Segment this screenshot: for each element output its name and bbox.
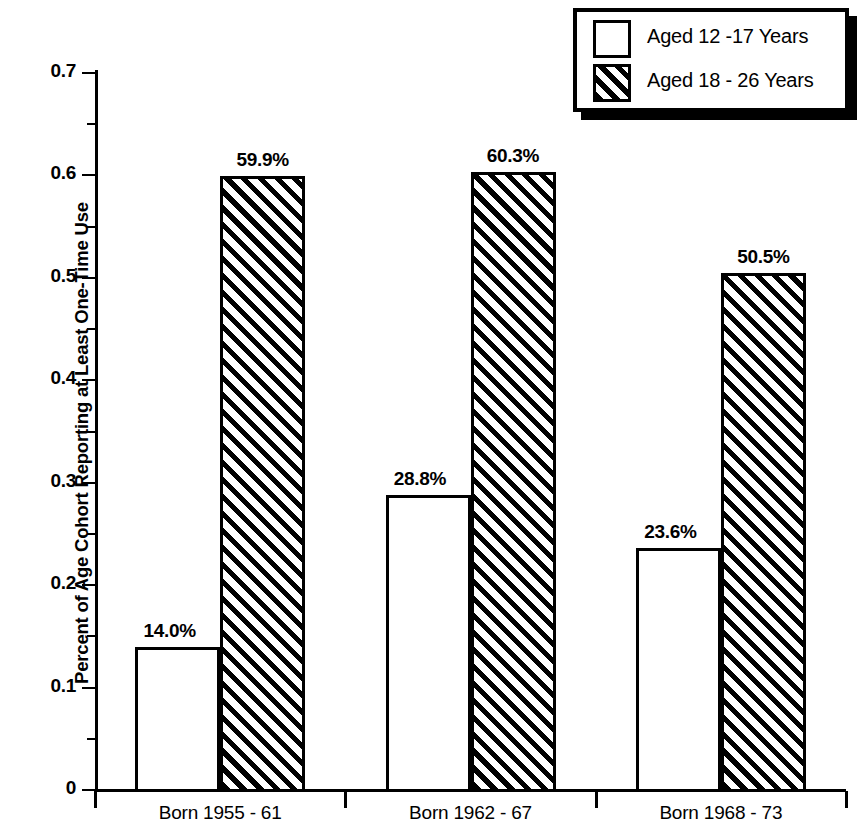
y-tick-major [82, 584, 98, 586]
y-tick-minor [87, 226, 98, 228]
y-tick-minor [87, 635, 98, 637]
x-axis-separator-tick [845, 791, 848, 808]
y-tick-label: 0.1 [0, 675, 76, 697]
y-tick-major [82, 174, 98, 176]
bar-value-label: 59.9% [208, 149, 318, 171]
bar-open [135, 647, 220, 792]
y-tick-major [82, 72, 98, 74]
y-tick-label: 0 [0, 777, 76, 799]
y-tick-minor [87, 431, 98, 433]
bar-value-label: 14.0% [115, 620, 225, 642]
y-tick-major [82, 482, 98, 484]
y-tick-label: 0.3 [0, 470, 76, 492]
y-tick-minor [87, 533, 98, 535]
y-tick-minor [87, 123, 98, 125]
bar-open [386, 495, 471, 792]
legend: Aged 12 -17 Years Aged 18 - 26 Years [573, 8, 849, 112]
x-axis-separator-tick [94, 791, 97, 808]
bar-chart: Percent of Age Cohort Reporting at Least… [0, 0, 867, 839]
x-category-label: Born 1955 - 61 [100, 802, 340, 824]
x-category-label: Born 1968 - 73 [601, 802, 841, 824]
y-tick-label: 0.7 [0, 60, 76, 82]
y-tick-major [82, 687, 98, 689]
y-tick-minor [87, 738, 98, 740]
y-tick-minor [87, 328, 98, 330]
legend-swatch-hatched-icon [593, 64, 631, 102]
y-tick-label: 0.6 [0, 162, 76, 184]
y-tick-major [82, 277, 98, 279]
bar-value-label: 60.3% [458, 145, 568, 167]
legend-label-1: Aged 18 - 26 Years [647, 69, 814, 92]
y-tick-label: 0.5 [0, 265, 76, 287]
bar-value-label: 50.5% [708, 246, 818, 268]
bar-open [636, 548, 721, 792]
bar-hatched [471, 172, 556, 792]
y-tick-label: 0.4 [0, 367, 76, 389]
bar-hatched [220, 176, 305, 792]
x-axis-separator-tick [344, 791, 347, 808]
bar-value-label: 23.6% [615, 521, 725, 543]
legend-label-0: Aged 12 -17 Years [647, 25, 808, 48]
bar-value-label: 28.8% [365, 468, 475, 490]
x-axis-separator-tick [595, 791, 598, 808]
y-tick-major [82, 379, 98, 381]
legend-swatch-open-icon [593, 20, 631, 58]
bar-hatched [721, 273, 806, 792]
x-category-label: Born 1962 - 67 [351, 802, 591, 824]
y-tick-label: 0.2 [0, 572, 76, 594]
